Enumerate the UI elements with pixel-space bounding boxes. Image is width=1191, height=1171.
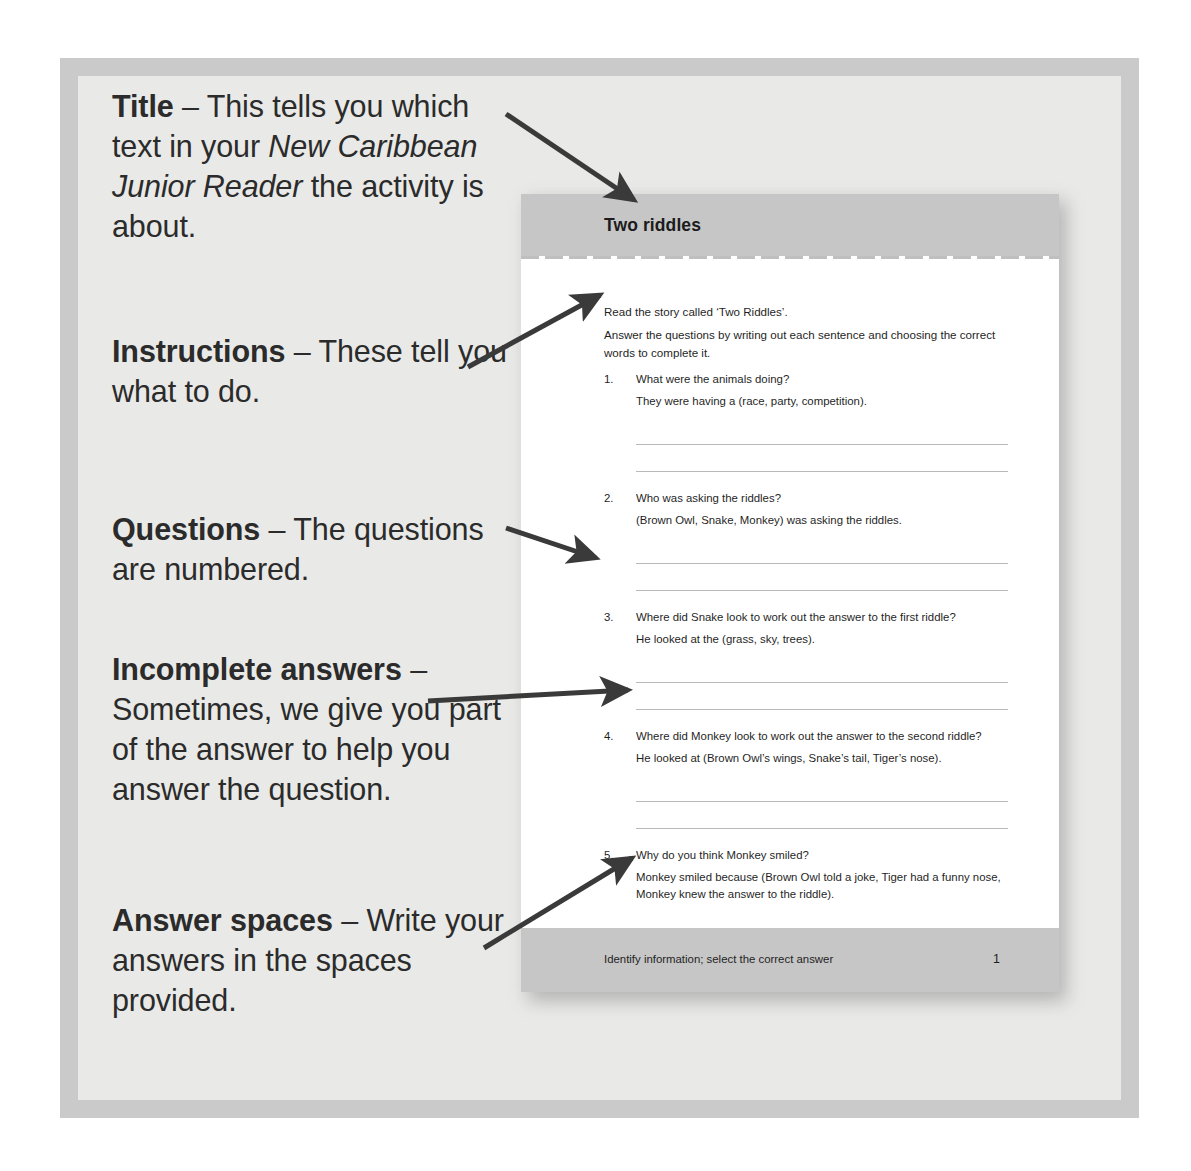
question-number: 5. — [604, 847, 630, 864]
question-answer-stem: They were having a (race, party, competi… — [636, 393, 1008, 410]
question-number: 2. — [604, 490, 630, 507]
annotation-title-dash: – — [174, 89, 207, 123]
question-list: 1. What were the animals doing? They wer… — [604, 371, 1008, 965]
question-number: 3. — [604, 609, 630, 626]
answer-line[interactable] — [636, 683, 1008, 710]
annotation-title: Title – This tells you which text in you… — [112, 86, 507, 246]
annotation-incomplete-answers-body: Sometimes, we give you part of the answe… — [112, 692, 501, 806]
question-answer-stem: (Brown Owl, Snake, Monkey) was asking th… — [636, 512, 1008, 529]
question-item: 3. Where did Snake look to work out the … — [604, 609, 1008, 710]
annotation-questions-dash: – — [260, 512, 293, 546]
answer-line[interactable] — [636, 445, 1008, 472]
question-prompt: What were the animals doing? — [636, 371, 1008, 388]
question-answer-stem: He looked at (Brown Owl’s wings, Snake’s… — [636, 750, 996, 767]
annotation-column: Title – This tells you which text in you… — [112, 86, 512, 1086]
annotation-answer-spaces-label: Answer spaces — [112, 903, 333, 937]
annotation-instructions: Instructions – These tell you what to do… — [112, 331, 507, 411]
question-prompt: Where did Snake look to work out the ans… — [636, 609, 1008, 626]
question-text-group: What were the animals doing? They were h… — [636, 371, 1008, 410]
annotation-incomplete-answers-label: Incomplete answers — [112, 652, 402, 686]
worksheet-header-band: Two riddles — [521, 194, 1059, 256]
worksheet-page: Two riddles Read the story called ‘Two R… — [521, 194, 1059, 992]
instruction-line-2: Answer the questions by writing out each… — [604, 326, 996, 362]
answer-line[interactable] — [636, 802, 1008, 829]
question-prompt: Who was asking the riddles? — [636, 490, 1008, 507]
question-answer-stem: He looked at the (grass, sky, trees). — [636, 631, 1008, 648]
answer-line[interactable] — [636, 418, 1008, 445]
annotation-instructions-dash: – — [285, 334, 318, 368]
worksheet-title: Two riddles — [604, 215, 701, 236]
answer-line[interactable] — [636, 775, 1008, 802]
annotation-incomplete-answers: Incomplete answers – Sometimes, we give … — [112, 649, 507, 809]
question-item: 4. Where did Monkey look to work out the… — [604, 728, 1008, 829]
question-text-group: Why do you think Monkey smiled? Monkey s… — [636, 847, 1008, 903]
answer-line[interactable] — [636, 656, 1008, 683]
worksheet-footer-band: Identify information; select the correct… — [521, 928, 1059, 992]
question-prompt: Why do you think Monkey smiled? — [636, 847, 1008, 864]
worksheet-instructions: Read the story called ‘Two Riddles’. Ans… — [604, 303, 1004, 362]
question-item: 1. What were the animals doing? They wer… — [604, 371, 1008, 472]
worksheet-footer-objective: Identify information; select the correct… — [604, 953, 833, 965]
answer-space-group[interactable] — [636, 537, 1008, 591]
answer-line[interactable] — [636, 564, 1008, 591]
worksheet-body: Read the story called ‘Two Riddles’. Ans… — [521, 259, 1059, 931]
answer-space-group[interactable] — [636, 418, 1008, 472]
annotation-instructions-label: Instructions — [112, 334, 285, 368]
annotation-questions-label: Questions — [112, 512, 260, 546]
annotation-answer-spaces: Answer spaces – Write your answers in th… — [112, 900, 507, 1020]
annotation-incomplete-answers-dash: – — [402, 652, 427, 686]
question-prompt: Where did Monkey look to work out the an… — [636, 728, 996, 745]
annotation-title-label: Title — [112, 89, 174, 123]
question-item: 2. Who was asking the riddles? (Brown Ow… — [604, 490, 1008, 591]
worksheet-page-number: 1 — [993, 952, 1000, 966]
question-number: 4. — [604, 728, 630, 745]
answer-space-group[interactable] — [636, 775, 1008, 829]
annotation-answer-spaces-dash: – — [333, 903, 367, 937]
question-number: 1. — [604, 371, 630, 388]
question-answer-stem: Monkey smiled because (Brown Owl told a … — [636, 869, 1008, 903]
page-root: Title – This tells you which text in you… — [0, 0, 1191, 1171]
answer-line[interactable] — [636, 537, 1008, 564]
question-text-group: Where did Snake look to work out the ans… — [636, 609, 1008, 648]
question-text-group: Where did Monkey look to work out the an… — [636, 728, 996, 767]
answer-space-group[interactable] — [636, 656, 1008, 710]
annotation-questions: Questions – The questions are numbered. — [112, 509, 507, 589]
instruction-line-1: Read the story called ‘Two Riddles’. — [604, 303, 1004, 321]
question-text-group: Who was asking the riddles? (Brown Owl, … — [636, 490, 1008, 529]
